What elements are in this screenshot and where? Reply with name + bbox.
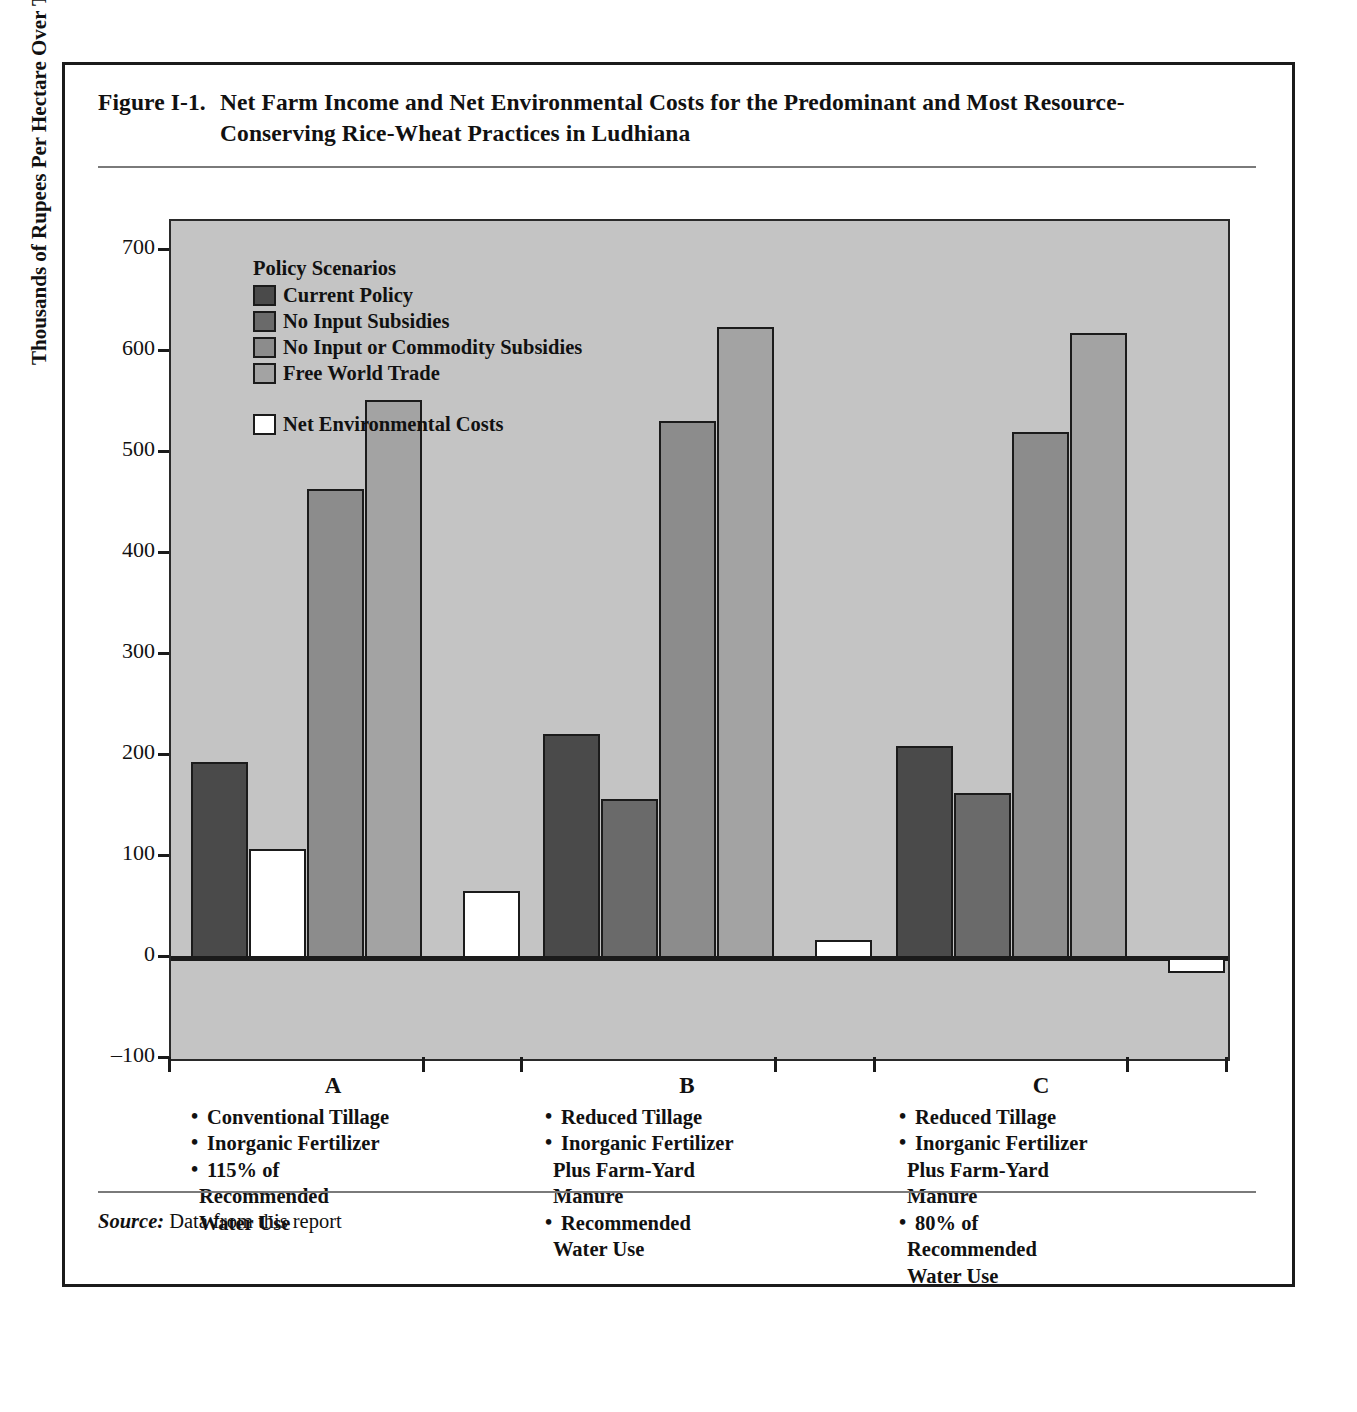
source-divider: [98, 1191, 1256, 1193]
y-axis-tick-mark: [158, 551, 169, 554]
y-axis-tick-label: 200: [89, 739, 155, 765]
category-letter: A: [183, 1073, 483, 1100]
category-bullets: Reduced Tillage Inorganic Fertilizer: [537, 1104, 837, 1157]
page-title: Figure I-1.Net Farm Income and Net Envir…: [98, 87, 1258, 149]
legend-item-current-policy[interactable]: Current Policy: [253, 283, 582, 308]
legend-spacer: [253, 387, 582, 412]
bar-a-series-2: [249, 849, 306, 958]
y-axis-tick-mark: [158, 248, 169, 251]
category-letter: C: [891, 1073, 1191, 1100]
list-item-continuation: Recommended: [891, 1236, 1191, 1263]
list-item-continuation: Recommended: [183, 1183, 483, 1210]
legend-item-no-input-or-commodity-subsidies[interactable]: No Input or Commodity Subsidies: [253, 335, 582, 360]
x-axis-tick-mark-inner: [774, 1057, 777, 1072]
legend-swatch-icon: [253, 414, 276, 435]
figure-number: Figure I-1.: [98, 87, 220, 118]
bar-a-series-3: [307, 489, 364, 958]
legend-label: No Input or Commodity Subsidies: [283, 336, 582, 359]
category-bullets-2: Recommended: [537, 1210, 837, 1237]
list-item: Inorganic Fertilizer: [191, 1130, 483, 1157]
legend-item-net-environmental-costs[interactable]: Net Environmental Costs: [253, 412, 582, 437]
list-item: Conventional Tillage: [191, 1104, 483, 1131]
source-label: Source:: [98, 1210, 164, 1232]
list-item-continuation: Plus Farm-Yard: [537, 1157, 837, 1184]
x-axis-tick-mark: [168, 1057, 171, 1072]
bar-b-series-2: [601, 799, 658, 959]
list-item: Reduced Tillage: [545, 1104, 837, 1131]
legend-swatch-icon: [253, 363, 276, 384]
y-axis-tick-mark: [158, 652, 169, 655]
category-bullets-2: 80% of: [891, 1210, 1191, 1237]
source-text: Data from this report: [169, 1210, 342, 1232]
y-axis-tick-label: –100: [89, 1042, 155, 1068]
bar-a-series-1: [191, 762, 248, 958]
list-item: 80% of: [899, 1210, 1191, 1237]
y-axis-tick-label: 100: [89, 840, 155, 866]
y-axis-tick-label: 0: [89, 941, 155, 967]
y-axis-tick-mark: [158, 753, 169, 756]
list-item: Reduced Tillage: [899, 1104, 1191, 1131]
category-bullets: Conventional Tillage Inorganic Fertilize…: [183, 1104, 483, 1184]
bar-b-series-1: [543, 734, 600, 958]
bar-b-series-5: [815, 940, 872, 958]
list-item-continuation: Water Use: [537, 1236, 837, 1263]
y-axis-tick-mark: [158, 349, 169, 352]
list-item-continuation: Manure: [537, 1183, 837, 1210]
y-axis-tick-label: 700: [89, 234, 155, 260]
legend-title: Policy Scenarios: [253, 257, 582, 280]
bar-c-series-1: [896, 746, 953, 958]
bar-b-series-3: [659, 421, 716, 958]
legend-label: Free World Trade: [283, 362, 440, 385]
legend-label: Net Environmental Costs: [283, 413, 504, 436]
list-item-continuation: Plus Farm-Yard: [891, 1157, 1191, 1184]
x-axis-tick-mark-inner: [1126, 1057, 1129, 1072]
list-item-continuation: Water Use: [891, 1263, 1191, 1290]
figure-title-text: Net Farm Income and Net Environmental Co…: [220, 87, 1220, 149]
list-item: 115% of: [191, 1157, 483, 1184]
y-axis-tick-mark: [158, 450, 169, 453]
figure-panel: Figure I-1.Net Farm Income and Net Envir…: [62, 62, 1295, 1287]
source-note: Source: Data from this report: [98, 1210, 342, 1233]
bar-a-series-4: [365, 400, 422, 958]
bar-c-series-4: [1070, 333, 1127, 958]
legend-label: No Input Subsidies: [283, 310, 449, 333]
legend-swatch-icon: [253, 285, 276, 306]
chart-legend: Policy Scenarios Current Policy No Input…: [253, 257, 582, 438]
category-letter: B: [537, 1073, 837, 1100]
x-axis-tick-mark: [520, 1057, 523, 1072]
category-bullets: Reduced Tillage Inorganic Fertilizer: [891, 1104, 1191, 1157]
bar-c-series-3: [1012, 432, 1069, 958]
x-axis-tick-mark-inner: [422, 1057, 425, 1072]
y-axis-tick-label: 500: [89, 436, 155, 462]
y-axis-tick-label: 600: [89, 335, 155, 361]
list-item: Inorganic Fertilizer: [899, 1130, 1191, 1157]
category-block-c: C Reduced Tillage Inorganic Fertilizer P…: [891, 1073, 1191, 1289]
category-block-b: B Reduced Tillage Inorganic Fertilizer P…: [537, 1073, 837, 1263]
legend-label: Current Policy: [283, 284, 413, 307]
list-item: Inorganic Fertilizer: [545, 1130, 837, 1157]
y-axis-title: Thousands of Rupees Per Hectare Over Thi…: [27, 0, 52, 365]
list-item-continuation: Manure: [891, 1183, 1191, 1210]
bar-c-series-5: [1168, 958, 1225, 973]
y-axis-tick-label: 400: [89, 537, 155, 563]
bar-b-series-4: [717, 327, 774, 958]
y-axis-tick-label: 300: [89, 638, 155, 664]
bar-a-series-5: [463, 891, 520, 958]
bar-c-series-2: [954, 793, 1011, 958]
y-axis-tick-mark: [158, 854, 169, 857]
legend-item-no-input-subsidies[interactable]: No Input Subsidies: [253, 309, 582, 334]
chart-plot-area: Policy Scenarios Current Policy No Input…: [169, 219, 1230, 1061]
y-axis-tick-mark: [158, 955, 169, 958]
legend-item-free-world-trade[interactable]: Free World Trade: [253, 361, 582, 386]
title-divider: [98, 166, 1256, 168]
legend-swatch-icon: [253, 337, 276, 358]
legend-swatch-icon: [253, 311, 276, 332]
x-axis-tick-mark: [873, 1057, 876, 1072]
x-axis-tick-mark: [1225, 1057, 1228, 1072]
list-item: Recommended: [545, 1210, 837, 1237]
